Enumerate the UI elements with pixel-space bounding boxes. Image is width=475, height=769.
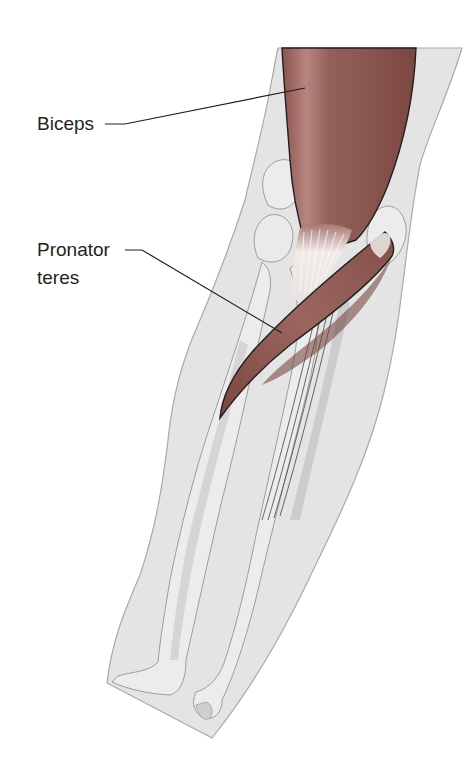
- biceps-label: Biceps: [37, 110, 94, 138]
- arm-outline: [107, 48, 462, 738]
- pronator-teres-label-line-1: Pronator: [37, 236, 110, 264]
- pronator-teres-label-line-2: teres: [37, 264, 110, 292]
- biceps-label-text: Biceps: [37, 113, 94, 134]
- pronator-teres-label: Pronator teres: [37, 236, 110, 292]
- humerus-capitulum: [254, 215, 293, 262]
